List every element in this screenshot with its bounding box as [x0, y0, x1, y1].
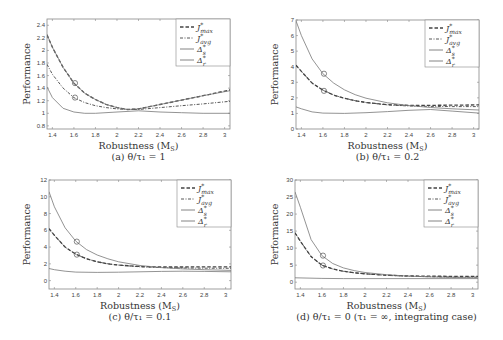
figure: 1.41.61.822.22.42.62.830.811.21.41.61.82… [0, 0, 503, 340]
x-tick-label: 2.4 [157, 292, 166, 298]
x-tick-label: 3 [223, 132, 227, 138]
legend-label: Δ*r [444, 215, 455, 228]
y-tick-label: 20 [286, 211, 293, 217]
x-tick-label: 1.8 [91, 132, 100, 138]
x-tick-label: 2.8 [447, 292, 456, 298]
y-tick-label: 30 [286, 177, 293, 183]
y-tick-label: 4 [291, 64, 295, 70]
y-tick-label: 6 [44, 227, 48, 233]
panel-caption: (a) θ/τ₁ = 1 [111, 151, 165, 162]
x-tick-label: 2.2 [383, 132, 392, 138]
x-tick-label: 1.8 [93, 292, 102, 298]
x-tick-label: 2.8 [200, 292, 209, 298]
y-tick-label: 0 [290, 279, 294, 285]
y-tick-label: 1 [291, 110, 295, 116]
y-tick-label: 5 [291, 48, 295, 54]
y-tick-label: 0 [44, 278, 48, 284]
x-tick-label: 3 [472, 132, 476, 138]
x-tick-label: 2.4 [405, 132, 414, 138]
panel-b: 1.41.61.822.22.42.62.8301234567J*maxJ*av… [269, 17, 479, 162]
x-tick-label: 3 [471, 292, 475, 298]
legend-label: Δ*r [445, 55, 456, 68]
y-tick-label: 10 [286, 245, 293, 251]
x-tick-label: 2 [364, 132, 368, 138]
legend-label: Δ*r [196, 54, 207, 67]
x-tick-label: 2.8 [448, 132, 457, 138]
x-tick-label: 1.4 [297, 132, 306, 138]
y-axis-title: Performance [269, 203, 280, 265]
x-tick-label: 1.6 [72, 292, 81, 298]
panel-c: 1.41.61.822.22.42.62.83024681012J*maxJ*a… [21, 177, 231, 322]
x-tick-label: 2.2 [382, 292, 391, 298]
y-tick-label: 2 [44, 261, 48, 267]
y-tick-label: 4 [44, 244, 48, 250]
legend: J*maxJ*avgΔ*sΔ*r [425, 20, 479, 68]
x-tick-label: 1.6 [318, 292, 327, 298]
x-tick-label: 2.4 [404, 292, 413, 298]
x-tick-label: 2.2 [136, 292, 145, 298]
x-tick-label: 2.6 [425, 292, 434, 298]
x-tick-label: 2.4 [156, 132, 165, 138]
y-tick-label: 2 [42, 47, 46, 53]
y-tick-label: 2 [291, 95, 295, 101]
y-tick-label: 1 [42, 110, 46, 116]
y-tick-label: 1.6 [37, 73, 46, 79]
y-tick-label: 0 [291, 126, 295, 132]
x-tick-label: 1.4 [48, 132, 57, 138]
y-tick-label: 1.2 [37, 98, 46, 104]
y-tick-label: 6 [291, 33, 295, 39]
y-axis-title: Performance [269, 43, 280, 105]
legend: J*maxJ*avgΔ*sΔ*r [424, 180, 478, 228]
y-tick-label: 15 [286, 228, 293, 234]
y-tick-label: 7 [291, 17, 295, 23]
y-tick-label: 3 [291, 79, 295, 85]
y-tick-label: 5 [290, 262, 294, 268]
x-tick-label: 1.8 [339, 292, 348, 298]
y-tick-label: 2.2 [37, 35, 46, 41]
panel-a: 1.41.61.822.22.42.62.830.811.21.41.61.82… [21, 19, 230, 162]
x-tick-label: 1.4 [50, 292, 59, 298]
x-tick-label: 2.8 [199, 132, 208, 138]
x-tick-label: 2.6 [426, 132, 435, 138]
legend: J*maxJ*avgΔ*sΔ*r [177, 180, 231, 228]
y-tick-label: 1.4 [37, 85, 46, 91]
x-tick-label: 1.4 [296, 292, 305, 298]
y-tick-label: 25 [286, 194, 293, 200]
panel-caption: (d) θ/τ₁ = 0 (τ₁ = ∞, integrating case) [296, 311, 476, 322]
x-tick-label: 2 [115, 132, 119, 138]
x-tick-label: 2 [363, 292, 367, 298]
y-tick-label: 2.4 [37, 22, 46, 28]
x-tick-label: 2.2 [134, 132, 143, 138]
y-axis-title: Performance [21, 43, 32, 105]
legend-label: Δ*r [197, 215, 208, 228]
x-tick-label: 3 [224, 292, 228, 298]
y-tick-label: 12 [40, 177, 47, 183]
y-tick-label: 1.8 [37, 60, 46, 66]
y-tick-label: 8 [44, 211, 48, 217]
x-tick-label: 2.6 [177, 132, 186, 138]
y-tick-label: 10 [40, 194, 47, 200]
y-axis-title: Performance [21, 203, 32, 265]
panel-d: 1.41.61.822.22.42.62.83051015202530J*max… [269, 177, 478, 322]
panel-caption: (c) θ/τ₁ = 0.1 [109, 311, 172, 322]
y-tick-label: 0.8 [37, 123, 46, 129]
x-tick-label: 2.6 [179, 292, 188, 298]
x-tick-label: 1.8 [340, 132, 349, 138]
panel-caption: (b) θ/τ₁ = 0.2 [356, 151, 420, 162]
x-tick-label: 1.6 [70, 132, 79, 138]
x-tick-label: 1.6 [319, 132, 328, 138]
x-tick-label: 2 [117, 292, 121, 298]
legend: J*maxJ*avgΔ*sΔ*r [176, 19, 230, 67]
